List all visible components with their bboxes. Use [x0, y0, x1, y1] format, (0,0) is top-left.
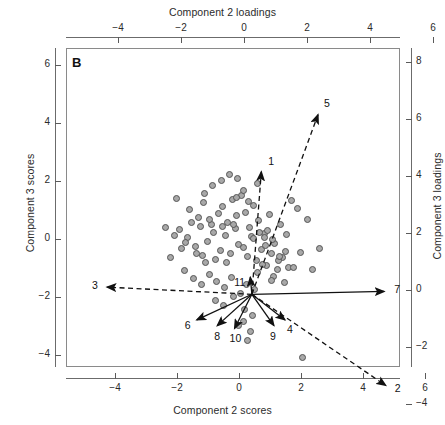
axis-tick — [115, 373, 116, 379]
loading-label-6: 6 — [185, 319, 191, 331]
scatter-point — [235, 322, 242, 329]
bottom-axis-title: Component 2 scores — [0, 404, 445, 416]
loading-label-8: 8 — [214, 330, 220, 342]
axis-tick — [118, 37, 119, 43]
scatter-point — [255, 217, 262, 224]
axis-tick-label: −4 — [28, 348, 50, 359]
scatter-point — [210, 229, 217, 236]
axis-tick — [55, 297, 61, 298]
scatter-point — [215, 210, 222, 217]
axis-tick — [406, 233, 412, 234]
axis-tick — [425, 373, 426, 379]
right-axis-line — [411, 48, 412, 367]
axis-tick-label: −4 — [100, 382, 130, 393]
axis-tick-label: 4 — [355, 22, 385, 33]
loading-label-1: 1 — [268, 155, 274, 167]
scatter-point — [190, 275, 197, 282]
scatter-point — [250, 235, 257, 242]
scatter-point — [213, 278, 220, 285]
scatter-point — [294, 205, 301, 212]
scatter-point — [198, 281, 205, 288]
scatter-point — [202, 259, 209, 266]
scatter-point — [309, 266, 316, 273]
axis-tick — [55, 181, 61, 182]
axis-tick — [406, 176, 412, 177]
axis-tick — [177, 373, 178, 379]
scatter-point — [242, 209, 249, 216]
scatter-point — [264, 227, 271, 234]
loading-label-10: 10 — [230, 332, 242, 344]
axis-tick-label: 0 — [224, 382, 254, 393]
scatter-point — [221, 284, 228, 291]
scatter-point — [290, 264, 297, 271]
left-axis-line — [55, 48, 56, 367]
scatter-point — [186, 206, 193, 213]
scatter-point — [240, 187, 247, 194]
scatter-point — [197, 223, 204, 230]
loading-label-9: 9 — [270, 330, 276, 342]
axis-tick — [55, 355, 61, 356]
scatter-point — [188, 219, 195, 226]
top-axis-line — [66, 37, 400, 38]
scatter-point — [247, 328, 254, 335]
axis-tick — [55, 65, 61, 66]
top-axis-title: Component 2 loadings — [0, 6, 445, 18]
loading-label-2: 2 — [395, 382, 401, 394]
scatter-point — [201, 190, 208, 197]
right-axis-title: Component 3 loadings — [431, 121, 443, 291]
scatter-point — [259, 261, 266, 268]
axis-tick — [55, 123, 61, 124]
axis-tick-label: 2 — [286, 382, 316, 393]
scatter-point — [206, 271, 213, 278]
axis-tick-label: 2 — [416, 226, 438, 237]
scatter-point — [178, 245, 185, 252]
scatter-point — [261, 234, 268, 241]
axis-tick-label: 6 — [28, 58, 50, 69]
axis-tick — [406, 404, 412, 405]
scatter-point — [268, 277, 275, 284]
loading-label-5: 5 — [324, 97, 330, 109]
axis-tick-label: −4 — [416, 397, 438, 408]
axis-tick — [239, 373, 240, 379]
axis-tick — [301, 373, 302, 379]
axis-tick-label: 6 — [410, 382, 440, 393]
scatter-point — [173, 195, 180, 202]
axis-tick — [406, 290, 412, 291]
loading-label-4: 4 — [287, 323, 293, 335]
scatter-point — [212, 297, 219, 304]
axis-tick-label: 6 — [416, 112, 438, 123]
scatter-point — [234, 175, 241, 182]
axis-tick-label: −2 — [166, 22, 196, 33]
scatter-point — [297, 249, 304, 256]
scatter-point — [227, 250, 234, 257]
plot-frame — [66, 48, 400, 367]
loading-label-11: 11 — [234, 276, 245, 288]
scatter-point — [167, 254, 174, 261]
scatter-point — [266, 211, 273, 218]
axis-tick-label: 8 — [416, 55, 438, 66]
axis-tick-label: 4 — [28, 116, 50, 127]
scatter-point — [195, 214, 202, 221]
scatter-point — [233, 212, 240, 219]
scatter-point — [223, 259, 230, 266]
axis-tick-label: −2 — [28, 290, 50, 301]
axis-tick-label: −2 — [416, 340, 438, 351]
scatter-point — [241, 306, 248, 313]
scatter-point — [181, 267, 188, 274]
scatter-point — [209, 182, 216, 189]
scatter-point — [230, 221, 237, 228]
scatter-point — [249, 312, 256, 319]
loading-label-7: 7 — [394, 283, 400, 295]
axis-tick — [307, 37, 308, 43]
scatter-point — [219, 203, 226, 210]
scatter-point — [218, 177, 225, 184]
scatter-point — [222, 232, 229, 239]
scatter-point — [316, 245, 323, 252]
panel-label: B — [72, 55, 81, 70]
axis-tick-label: 4 — [348, 382, 378, 393]
scatter-point — [212, 256, 219, 263]
scatter-point — [233, 194, 240, 201]
scatter-point — [251, 286, 258, 293]
axis-tick — [406, 62, 412, 63]
scatter-point — [244, 337, 251, 344]
